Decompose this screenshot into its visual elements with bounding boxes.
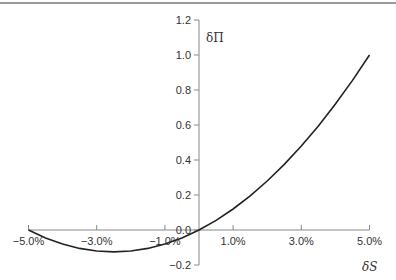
y-tick-label: 0.2 — [176, 189, 191, 201]
x-tick-label: 5.0% — [357, 235, 382, 247]
x-tick-label: −1.0% — [149, 235, 181, 247]
x-tick-label: 1.0% — [221, 235, 246, 247]
chart: −0.20.00.20.40.60.81.01.2−5.0%−3.0%−1.0%… — [0, 0, 396, 280]
x-tick-label: −3.0% — [81, 235, 113, 247]
x-axis-title: δS — [362, 260, 377, 274]
y-tick-label: 0.8 — [176, 84, 191, 96]
y-tick-label: −0.2 — [169, 259, 191, 271]
y-axis-title: δΠ — [206, 31, 224, 45]
x-tick-label: 3.0% — [289, 235, 314, 247]
axes — [29, 20, 370, 265]
ticks: −0.20.00.20.40.60.81.01.2−5.0%−3.0%−1.0%… — [13, 14, 383, 271]
y-tick-label: 0.6 — [176, 119, 191, 131]
y-tick-label: 1.2 — [176, 14, 191, 26]
x-tick-label: −5.0% — [13, 235, 45, 247]
y-tick-label: 0.4 — [176, 154, 191, 166]
y-tick-label: 1.0 — [176, 49, 191, 61]
